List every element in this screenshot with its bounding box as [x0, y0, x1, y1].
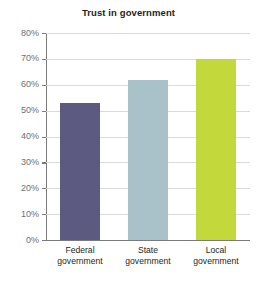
- bar[interactable]: [196, 59, 236, 240]
- bar[interactable]: [60, 103, 100, 240]
- x-axis-label-line: Federal: [46, 245, 114, 256]
- gridline: [46, 240, 250, 241]
- y-axis-tick-label: 70%: [1, 54, 39, 63]
- bar-chart: Trust in government 80%70%60%50%40%30%20…: [0, 0, 257, 282]
- y-axis-tick-label: 50%: [1, 106, 39, 115]
- bar[interactable]: [128, 80, 168, 240]
- x-axis-label-line: Local: [182, 245, 250, 256]
- x-axis-label: Localgovernment: [182, 245, 250, 266]
- x-axis-label-line: government: [182, 256, 250, 267]
- y-axis-tick-label: 10%: [1, 210, 39, 219]
- y-axis-tick-label: 20%: [1, 184, 39, 193]
- x-axis-label: Federalgovernment: [46, 245, 114, 266]
- gridline: [46, 33, 250, 34]
- plot-area: [46, 33, 250, 240]
- y-axis-tick-label: 30%: [1, 158, 39, 167]
- y-axis-tick-label: 40%: [1, 132, 39, 141]
- x-axis-label-line: government: [46, 256, 114, 267]
- chart-title: Trust in government: [0, 7, 257, 18]
- y-axis-tick-label: 60%: [1, 80, 39, 89]
- y-axis-tick-label: 80%: [1, 29, 39, 38]
- x-axis-label-line: government: [114, 256, 182, 267]
- x-axis-label-line: State: [114, 245, 182, 256]
- x-axis-label: Stategovernment: [114, 245, 182, 266]
- y-axis-tick-label: 0%: [1, 236, 39, 245]
